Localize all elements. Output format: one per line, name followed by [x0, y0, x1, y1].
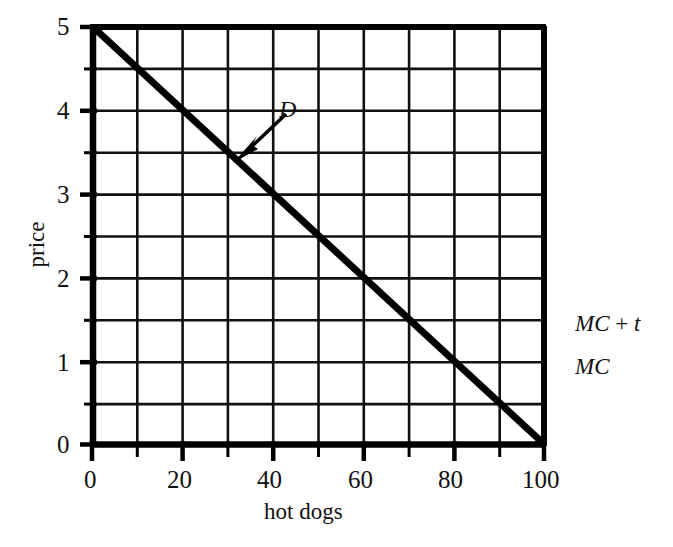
mc-plus-tax-prefix: MC [575, 311, 610, 336]
x-tick-label-100: 100 [522, 467, 560, 492]
mc-plus-tax-label: MC + t [575, 312, 640, 335]
mc-plus-tax-operator: + [610, 311, 634, 336]
chart-canvas [0, 0, 673, 547]
x-tick-label-0: 0 [84, 467, 97, 492]
x-axis-title: hot dogs [264, 500, 343, 523]
mc-label: MC [575, 355, 610, 378]
mc-plus-tax-suffix: t [634, 311, 640, 336]
y-tick-label-0: 0 [57, 432, 70, 457]
y-tick-label-5: 5 [57, 14, 70, 39]
chart-background [0, 0, 673, 547]
y-tick-label-2: 2 [57, 266, 70, 291]
x-tick-label-80: 80 [438, 467, 463, 492]
demand-chart-figure: 5 4 3 2 1 0 0 20 40 60 80 100 price hot … [0, 0, 673, 547]
x-tick-label-20: 20 [167, 467, 192, 492]
x-tick-label-40: 40 [257, 467, 282, 492]
y-axis-title: price [25, 205, 48, 285]
demand-curve-label: D [279, 97, 296, 121]
y-tick-label-3: 3 [57, 182, 70, 207]
x-tick-label-60: 60 [348, 467, 373, 492]
y-tick-label-1: 1 [57, 350, 70, 375]
y-tick-label-4: 4 [57, 98, 70, 123]
